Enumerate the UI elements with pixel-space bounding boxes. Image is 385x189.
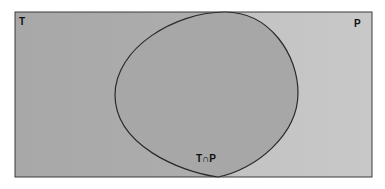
intersection-label: T∩P [196, 153, 216, 164]
set-t-label: T [19, 16, 25, 27]
venn-diagram [0, 0, 385, 189]
set-p-label: P [354, 18, 361, 29]
